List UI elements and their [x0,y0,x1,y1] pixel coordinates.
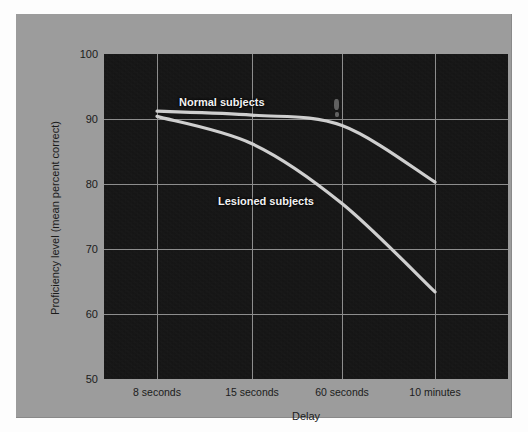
series-label-normal-subjects: Normal subjects [179,96,265,108]
line-normal-subjects [157,111,435,182]
x-tick-10-minutes: 10 minutes [390,386,480,398]
data-series-lines [104,54,508,379]
x-tick-8-seconds: 8 seconds [112,386,202,398]
y-tick-100: 100 [64,49,98,60]
y-tick-50: 50 [64,374,98,385]
y-tick-70: 70 [64,244,98,255]
x-tick-60-seconds: 60 seconds [297,386,387,398]
chart-figure: Proficiency level (mean percent correct)… [0,0,528,432]
chart-panel: Proficiency level (mean percent correct)… [16,14,512,418]
y-tick-60: 60 [64,309,98,320]
series-label-lesioned-subjects: Lesioned subjects [218,195,314,207]
x-axis-title: Delay [104,410,508,422]
x-tick-15-seconds: 15 seconds [207,386,297,398]
y-tick-80: 80 [64,179,98,190]
y-tick-90: 90 [64,114,98,125]
plot-area: Normal subjects Lesioned subjects [104,54,508,379]
y-axis-tick-labels: 100 90 80 70 60 50 [60,14,98,432]
